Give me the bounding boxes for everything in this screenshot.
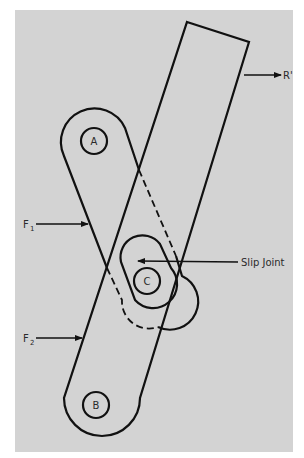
reaction-label: R': [283, 70, 293, 81]
force-2-subscript: 2: [30, 339, 34, 347]
short-link-hidden: [139, 170, 176, 256]
pivot-a-label: A: [91, 136, 98, 147]
short-link-solid: [61, 108, 139, 268]
linkage-diagram: A B C R' F 1 F 2 Slip Joint: [0, 0, 304, 458]
slip-joint-slot: [120, 235, 177, 308]
pivot-b-label: B: [93, 400, 100, 411]
force-1-label: F: [23, 219, 29, 230]
slip-joint-arrow: [138, 261, 238, 262]
pivot-c-label: C: [144, 276, 151, 287]
force-1-subscript: 1: [30, 225, 34, 233]
force-2-label: F: [23, 333, 29, 344]
slip-joint-label: Slip Joint: [241, 257, 285, 268]
